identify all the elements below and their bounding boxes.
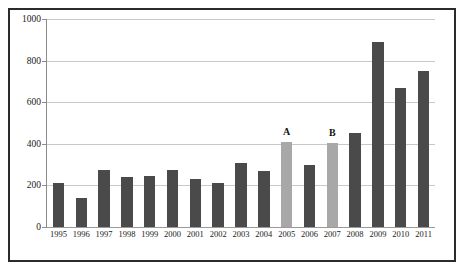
x-tick-label-2009: 2009 bbox=[369, 229, 386, 239]
x-tick-label-2006: 2006 bbox=[301, 229, 318, 239]
y-tick-mark-1000 bbox=[42, 19, 47, 20]
bar-2000 bbox=[167, 19, 178, 227]
bars-layer: AB bbox=[47, 19, 435, 227]
bar-rect-2008 bbox=[349, 133, 360, 227]
x-tick-label-2011: 2011 bbox=[415, 229, 432, 239]
x-tick-label-2004: 2004 bbox=[255, 229, 272, 239]
bar-2007: B bbox=[327, 19, 338, 227]
bar-2005: A bbox=[281, 19, 292, 227]
x-tick-label-2001: 2001 bbox=[187, 229, 204, 239]
y-tick-label-0: 0 bbox=[36, 222, 41, 232]
y-axis-tick-labels: 02004006008001000 bbox=[0, 0, 41, 275]
bar-2006 bbox=[304, 19, 315, 227]
x-tick-label-1998: 1998 bbox=[118, 229, 135, 239]
x-tick-label-1999: 1999 bbox=[141, 229, 158, 239]
chart-figure: 02004006008001000 AB 1995199619971998199… bbox=[0, 0, 464, 275]
bar-1998 bbox=[121, 19, 132, 227]
bar-rect-2001 bbox=[190, 179, 201, 227]
bar-rect-1996 bbox=[76, 198, 87, 227]
bar-2011 bbox=[418, 19, 429, 227]
x-tick-label-2005: 2005 bbox=[278, 229, 295, 239]
x-tick-label-1997: 1997 bbox=[96, 229, 113, 239]
y-tick-label-800: 800 bbox=[27, 56, 41, 66]
bar-2008 bbox=[349, 19, 360, 227]
bar-annotation-2007: B bbox=[329, 128, 336, 138]
bar-annotation-2005: A bbox=[283, 127, 290, 137]
y-tick-mark-0 bbox=[42, 227, 47, 228]
x-tick-label-2000: 2000 bbox=[164, 229, 181, 239]
x-tick-label-2007: 2007 bbox=[324, 229, 341, 239]
bar-rect-2002 bbox=[212, 183, 223, 227]
y-tick-mark-800 bbox=[42, 61, 47, 62]
bar-2003 bbox=[235, 19, 246, 227]
bar-2002 bbox=[212, 19, 223, 227]
bar-2001 bbox=[190, 19, 201, 227]
bar-rect-2000 bbox=[167, 170, 178, 227]
bar-2004 bbox=[258, 19, 269, 227]
bar-rect-1998 bbox=[121, 177, 132, 227]
bar-1997 bbox=[98, 19, 109, 227]
y-tick-mark-600 bbox=[42, 102, 47, 103]
bar-rect-2011 bbox=[418, 71, 429, 227]
bar-1995 bbox=[53, 19, 64, 227]
x-tick-label-2008: 2008 bbox=[347, 229, 364, 239]
x-axis-tick-labels: 1995199619971998199920002001200220032004… bbox=[47, 229, 435, 245]
bar-rect-1999 bbox=[144, 176, 155, 227]
x-tick-label-2003: 2003 bbox=[233, 229, 250, 239]
x-tick-label-1996: 1996 bbox=[73, 229, 90, 239]
y-tick-label-400: 400 bbox=[27, 139, 41, 149]
bar-rect-1997 bbox=[98, 170, 109, 227]
bar-1996 bbox=[76, 19, 87, 227]
bar-2010 bbox=[395, 19, 406, 227]
y-tick-mark-400 bbox=[42, 144, 47, 145]
bar-rect-2005 bbox=[281, 142, 292, 227]
y-tick-label-1000: 1000 bbox=[22, 14, 41, 24]
bar-rect-2003 bbox=[235, 163, 246, 227]
y-tick-label-600: 600 bbox=[27, 97, 41, 107]
bar-2009 bbox=[372, 19, 383, 227]
bar-rect-2004 bbox=[258, 171, 269, 227]
bar-rect-2007 bbox=[327, 143, 338, 227]
x-tick-label-1995: 1995 bbox=[50, 229, 67, 239]
bar-rect-2009 bbox=[372, 42, 383, 227]
gridline-0 bbox=[47, 227, 435, 228]
x-tick-label-2002: 2002 bbox=[210, 229, 227, 239]
y-tick-mark-200 bbox=[42, 185, 47, 186]
bar-1999 bbox=[144, 19, 155, 227]
bar-rect-1995 bbox=[53, 183, 64, 227]
x-tick-label-2010: 2010 bbox=[392, 229, 409, 239]
bar-rect-2006 bbox=[304, 165, 315, 227]
bar-rect-2010 bbox=[395, 88, 406, 227]
y-tick-label-200: 200 bbox=[27, 180, 41, 190]
